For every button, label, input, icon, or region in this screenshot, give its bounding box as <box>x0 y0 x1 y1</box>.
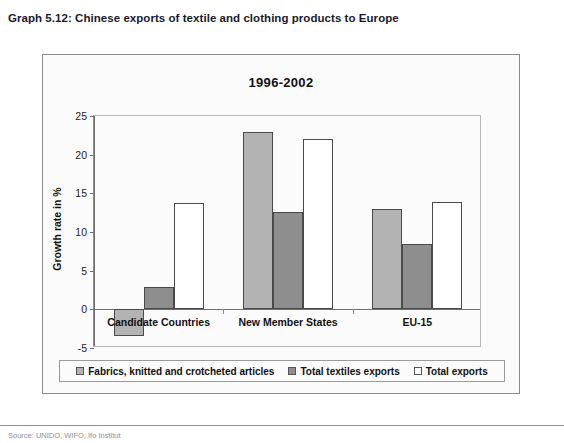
legend-swatch-icon <box>414 367 422 375</box>
legend-item: Total textiles exports <box>288 366 399 377</box>
y-axis-line <box>94 116 95 346</box>
legend-label: Total textiles exports <box>300 366 399 377</box>
x-category-label: EU-15 <box>402 316 432 328</box>
bar <box>243 132 273 309</box>
y-tick-label: 5 <box>81 265 87 277</box>
y-tick-mark <box>90 193 94 194</box>
bar <box>432 202 462 309</box>
y-tick-mark <box>90 155 94 156</box>
bar <box>144 287 174 309</box>
y-tick-mark <box>90 271 94 272</box>
x-category-label: New Member States <box>238 316 337 328</box>
y-tick-label: 15 <box>75 187 87 199</box>
y-tick-label: 0 <box>81 303 87 315</box>
x-tick-mark <box>223 309 224 314</box>
y-tick-mark <box>90 232 94 233</box>
x-category-label: Candidate Countries <box>107 316 210 328</box>
bar <box>303 139 333 309</box>
legend-swatch-icon <box>288 367 296 375</box>
legend-label: Fabrics, knitted and crotcheted articles <box>88 366 274 377</box>
y-tick-label: 20 <box>75 149 87 161</box>
legend-label: Total exports <box>426 366 488 377</box>
legend-item: Total exports <box>414 366 488 377</box>
y-tick-mark <box>90 348 94 349</box>
chart-legend: Fabrics, knitted and crotcheted articles… <box>59 360 505 382</box>
chart-title: 1996-2002 <box>43 75 519 90</box>
bar <box>372 209 402 310</box>
chart-frame: 1996-2002 Growth rate in % 2520151050-5 … <box>42 54 520 394</box>
y-tick-mark <box>90 116 94 117</box>
bar <box>402 244 432 309</box>
y-tick-label: 10 <box>75 226 87 238</box>
footer-divider <box>0 425 564 426</box>
legend-swatch-icon <box>76 367 84 375</box>
plot-area: 2520151050-5 Candidate CountriesNew Memb… <box>93 115 481 347</box>
source-note: Source: UNIDO, WIFO, Ifo Institut <box>8 431 121 440</box>
y-axis-title: Growth rate in % <box>51 187 63 270</box>
figure-caption: Graph 5.12: Chinese exports of textile a… <box>8 12 399 24</box>
bar <box>273 212 303 309</box>
y-tick-label: -5 <box>78 342 87 354</box>
zero-baseline <box>94 309 480 310</box>
legend-item: Fabrics, knitted and crotcheted articles <box>76 366 274 377</box>
bar <box>174 203 204 310</box>
x-tick-mark <box>353 309 354 314</box>
y-tick-label: 25 <box>75 110 87 122</box>
